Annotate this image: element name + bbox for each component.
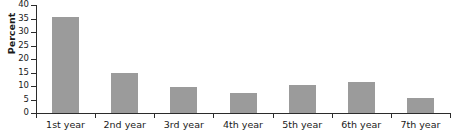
- y-axis-tick: [31, 86, 36, 87]
- y-axis-tick-label-wrap: 30: [0, 32, 29, 33]
- bar: [170, 87, 197, 113]
- y-axis-line: [36, 5, 37, 114]
- x-axis-tick-label: 5th year: [273, 120, 332, 130]
- y-axis-tick-label: 10: [3, 81, 29, 90]
- y-axis-tick-label: 25: [3, 41, 29, 50]
- y-axis-tick-label-wrap: 10: [0, 86, 29, 87]
- y-axis-tick-label-wrap: 20: [0, 59, 29, 60]
- x-axis-tick: [450, 113, 451, 118]
- y-axis-tick-label: 40: [3, 0, 29, 9]
- x-axis-tick: [391, 113, 392, 118]
- y-axis-tick: [31, 73, 36, 74]
- y-axis-tick-label-wrap: 5: [0, 100, 29, 101]
- bar: [289, 85, 316, 113]
- y-axis-tick: [31, 100, 36, 101]
- bar-chart: Percent 0510152025303540 1st year2nd yea…: [0, 0, 456, 139]
- bar: [52, 17, 79, 113]
- y-axis-tick-label-wrap: 35: [0, 19, 29, 20]
- y-axis-tick-label-wrap: 15: [0, 73, 29, 74]
- x-axis-tick: [95, 113, 96, 118]
- x-axis-tick-label: 1st year: [36, 120, 95, 130]
- bar: [407, 98, 434, 113]
- x-axis-tick: [213, 113, 214, 118]
- x-axis-tick: [154, 113, 155, 118]
- x-axis-tick-label: 2nd year: [95, 120, 154, 130]
- y-axis-tick-label: 0: [3, 108, 29, 117]
- x-axis-tick-label: 6th year: [332, 120, 391, 130]
- y-axis-tick-label: 5: [3, 95, 29, 104]
- y-axis-tick: [31, 46, 36, 47]
- y-axis-tick-label-wrap: 0: [0, 113, 29, 114]
- bar: [230, 93, 257, 113]
- y-axis-tick-label: 15: [3, 68, 29, 77]
- y-axis-tick-label: 30: [3, 27, 29, 36]
- y-axis-tick: [31, 19, 36, 20]
- x-axis-tick: [36, 113, 37, 118]
- x-axis-tick-label: 7th year: [391, 120, 450, 130]
- x-axis-tick: [332, 113, 333, 118]
- x-axis-tick-label: 4th year: [213, 120, 272, 130]
- bar: [348, 82, 375, 113]
- y-axis-tick-label: 35: [3, 14, 29, 23]
- y-axis-tick-label-wrap: 25: [0, 46, 29, 47]
- y-axis-tick-label: 20: [3, 54, 29, 63]
- y-axis-tick: [31, 32, 36, 33]
- y-axis-tick: [31, 5, 36, 6]
- bar: [111, 73, 138, 114]
- x-axis-tick: [273, 113, 274, 118]
- y-axis-tick-label-wrap: 40: [0, 5, 29, 6]
- plot-area: 0510152025303540 1st year2nd year3rd yea…: [0, 0, 456, 139]
- x-axis-tick-label: 3rd year: [154, 120, 213, 130]
- y-axis-tick: [31, 59, 36, 60]
- x-axis-line: [36, 113, 450, 114]
